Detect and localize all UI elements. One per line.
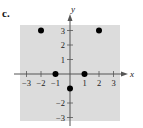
x-tick-label: −2 (36, 78, 45, 88)
data-point (67, 86, 73, 92)
data-point (96, 28, 102, 34)
data-point (82, 71, 88, 77)
y-tick-label: 2 (61, 40, 65, 50)
x-tick-label: 3 (111, 78, 115, 88)
y-tick-label: −2 (56, 98, 65, 108)
x-tick-label: 2 (97, 78, 101, 88)
x-tick-label: 1 (82, 78, 86, 88)
x-axis-arrow-icon (121, 72, 128, 77)
y-tick-label: −3 (56, 113, 65, 123)
y-axis-label: y (70, 4, 75, 14)
x-tick-label: −3 (22, 78, 31, 88)
y-axis-arrow-icon (68, 14, 73, 21)
x-axis-label: x (129, 69, 134, 79)
data-point (38, 28, 44, 34)
y-tick-label: 3 (61, 26, 65, 36)
x-tick-label: −1 (51, 78, 60, 88)
y-tick-label: 1 (61, 55, 65, 65)
data-point (53, 71, 59, 77)
scatter-plot: xy−3−2−1123321−2−3 (0, 0, 143, 128)
